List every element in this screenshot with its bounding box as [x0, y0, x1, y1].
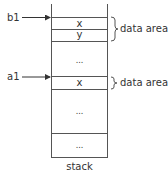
cell-ellipsis-2: ...	[76, 107, 84, 116]
pointer-a1-label: a1	[7, 71, 20, 82]
cell-x-1: x	[77, 18, 83, 29]
cell-ellipsis-1: ...	[76, 56, 84, 65]
data-area-label-1: data area	[120, 23, 168, 34]
brace-data-area-2	[111, 77, 117, 89]
cell-x-2: x	[77, 77, 83, 88]
pointer-b1-label: b1	[7, 12, 20, 23]
brace-data-area-1	[111, 17, 118, 41]
stack-caption: stack	[66, 161, 93, 172]
cell-y: y	[77, 29, 83, 40]
stack-diagram: x y ... x ... ... b1 a1 data area data a…	[0, 0, 168, 172]
data-area-label-2: data area	[120, 77, 168, 88]
cell-ellipsis-3: ...	[76, 141, 84, 150]
